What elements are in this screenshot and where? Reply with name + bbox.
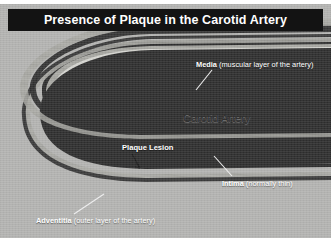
figure-title: Presence of Plaque in the Carotid Artery xyxy=(44,13,287,27)
leader-line-adventitia xyxy=(74,194,104,214)
carotid-artery-illustration: Presence of Plaque in the Carotid Artery… xyxy=(0,0,331,245)
media-lower-dark xyxy=(40,48,331,169)
title-banner: Presence of Plaque in the Carotid Artery xyxy=(8,9,323,31)
illustration-plate: Presence of Plaque in the Carotid Artery… xyxy=(0,4,331,238)
artery-artwork xyxy=(0,4,331,238)
